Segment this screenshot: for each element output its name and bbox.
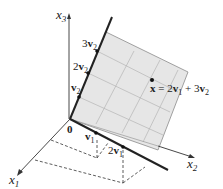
v2-label: v2 — [71, 81, 81, 96]
3v2-label: 3v2 — [82, 37, 97, 52]
x3-arrow-icon — [67, 13, 71, 19]
v1-label: v1 — [85, 130, 95, 145]
origin-label: 0 — [67, 123, 73, 135]
2v2-label: 2v2 — [73, 60, 88, 75]
diagram-canvas: x3 x1 x2 0 v2 2v2 3v2 v1 2v1 x = 2v1 + 3… — [0, 0, 223, 189]
x2-label: x2 — [186, 156, 198, 173]
x3-label: x3 — [55, 7, 67, 24]
x1-axis — [19, 119, 70, 173]
span-diagram: x3 x1 x2 0 v2 2v2 3v2 v1 2v1 x = 2v1 + 3… — [0, 0, 223, 189]
